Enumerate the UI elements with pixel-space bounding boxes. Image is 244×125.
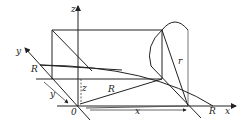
cross-arc — [149, 30, 162, 66]
R-arc — [40, 65, 213, 106]
R-line — [80, 79, 162, 104]
top-diagonal — [52, 30, 92, 71]
top-arc — [162, 22, 188, 30]
r-line — [162, 30, 188, 106]
y-dim-line — [44, 82, 68, 103]
x-axis-label: x — [225, 106, 230, 116]
y-dim-label: y — [49, 89, 56, 99]
R-left-label: R — [30, 64, 38, 74]
origin-label: 0 — [71, 107, 77, 117]
x-dim-label: x — [135, 106, 140, 116]
z-axis-label: z — [70, 4, 76, 14]
R-mid-label: R — [107, 84, 115, 94]
r-label: r — [178, 56, 183, 66]
z-dim-label: z — [81, 83, 87, 93]
R-right-label: R — [208, 106, 216, 116]
y-axis-label: y — [15, 46, 22, 56]
diagram-canvas: z y x 0 R y z R x R r — [0, 0, 244, 125]
